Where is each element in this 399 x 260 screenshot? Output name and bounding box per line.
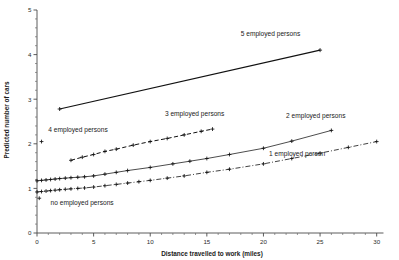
data-point-marker [92,153,96,157]
data-point-marker [40,178,44,182]
data-point-marker [103,172,107,176]
data-point-marker [148,178,152,182]
data-point-marker [171,162,175,166]
data-point-marker [58,188,62,192]
x-tick-label: 30 [373,238,380,245]
data-series [35,48,378,200]
x-tick-label: 20 [260,238,267,245]
data-point-marker [40,140,44,144]
data-point-marker [63,187,67,191]
series-label: 2 employed persons [286,112,346,120]
data-point-marker [92,174,96,178]
data-point-marker [58,177,62,181]
data-point-marker [148,166,152,170]
data-point-marker [92,185,96,189]
data-point-marker [126,181,130,185]
data-point-marker [76,187,80,191]
y-tick-label: 4 [28,51,32,58]
series-line [37,142,377,192]
chart-canvas: 012345051015202530 5 employed persons4 e… [0,0,399,260]
x-tick-label: 25 [317,238,324,245]
data-point-marker [40,190,44,194]
data-point-marker [228,167,232,171]
data-point-marker [182,174,186,178]
series-label: 5 employed persons [241,30,301,38]
data-point-marker [329,129,333,133]
data-point-marker [53,188,57,192]
series-label: 1 employed person [269,150,325,158]
data-point-marker [148,140,152,144]
data-point-marker [114,170,118,174]
data-point-marker [165,176,169,180]
series-line [60,50,320,109]
y-tick-label: 1 [28,185,32,192]
series-0 [58,48,322,111]
data-point-marker [58,107,62,111]
data-point-marker [375,140,379,144]
x-tick-label: 5 [92,238,96,245]
data-point-marker [53,177,57,181]
data-point-marker [262,146,266,150]
x-tick-label: 15 [203,238,210,245]
data-point-marker [69,158,73,162]
series-label: 3 employed persons [165,110,225,118]
data-point-marker [44,178,48,182]
data-point-marker [318,48,322,52]
data-point-marker [103,184,107,188]
data-point-marker [182,133,186,137]
data-point-marker [103,149,107,153]
data-point-marker [188,159,192,163]
data-point-marker [131,143,135,147]
series-label: no employed persons [51,199,115,207]
series-annotations: 5 employed persons4 employed persons3 em… [48,30,346,207]
data-point-marker [211,127,215,131]
data-point-marker [69,187,73,191]
data-point-marker [49,189,53,193]
data-point-marker [262,162,266,166]
y-tick-label: 3 [28,96,32,103]
data-point-marker [63,176,67,180]
y-tick-label: 2 [28,140,32,147]
series-4 [35,140,378,194]
data-point-marker [114,147,118,151]
data-point-marker [76,175,80,179]
data-point-marker [205,170,209,174]
chart-figure: 012345051015202530 5 employed persons4 e… [0,0,399,260]
data-point-marker [165,137,169,141]
data-point-marker [137,180,141,184]
y-tick-label: 5 [28,6,32,13]
data-point-marker [69,176,73,180]
data-point-marker [83,175,87,179]
series-5 [37,196,41,200]
data-point-marker [80,155,84,159]
y-tick-label: 0 [28,229,32,236]
data-point-marker [199,129,203,133]
data-point-marker [49,178,53,182]
data-point-marker [44,189,48,193]
x-axis-title: Distance travelled to work (miles) [161,250,263,258]
series-line [71,129,213,160]
data-point-marker [83,186,87,190]
data-point-marker [205,157,209,161]
data-point-marker [37,196,41,200]
series-1 [40,140,44,144]
series-label: 4 employed persons [48,126,108,134]
y-axis-title: Predicted number of cars [3,81,10,159]
data-point-marker [35,190,39,194]
data-point-marker [114,182,118,186]
data-point-marker [290,139,294,143]
x-tick-label: 0 [35,238,39,245]
data-point-marker [228,153,232,157]
data-point-marker [346,145,350,149]
x-tick-label: 10 [147,238,154,245]
data-point-marker [126,169,130,173]
